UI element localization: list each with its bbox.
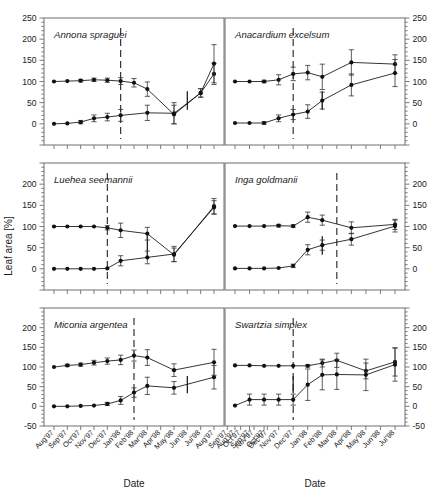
- data-point: [119, 79, 123, 83]
- data-point: [233, 79, 237, 83]
- data-point: [233, 121, 237, 125]
- y-tick-label: 200: [22, 179, 37, 189]
- data-point: [119, 113, 123, 117]
- data-point: [306, 383, 310, 387]
- panel-swartzia-simplex: 200150100500-50Swartzia simplex: [225, 308, 427, 431]
- y-tick-label: 0: [413, 119, 418, 129]
- data-point: [247, 121, 251, 125]
- y-tick-label: 0: [32, 264, 37, 274]
- data-point: [145, 255, 149, 259]
- data-point: [349, 83, 353, 87]
- data-point: [262, 224, 266, 228]
- y-tick-label: 50: [413, 382, 423, 392]
- y-tick-label: 150: [22, 342, 37, 352]
- data-point: [247, 266, 251, 270]
- y-tick-label: 200: [413, 179, 428, 189]
- data-point: [320, 373, 324, 377]
- y-tick-label: 100: [22, 362, 37, 372]
- data-point: [393, 224, 397, 228]
- panel-luehea-seemannii: 200150100500Luehea seemannii: [22, 163, 224, 294]
- data-point: [306, 109, 310, 113]
- data-point: [65, 404, 69, 408]
- data-point: [65, 121, 69, 125]
- data-point: [247, 363, 251, 367]
- data-point: [65, 79, 69, 83]
- y-tick-label: 50: [413, 243, 423, 253]
- data-point: [132, 81, 136, 85]
- y-tick-label: 250: [22, 13, 37, 23]
- data-point: [247, 79, 251, 83]
- data-point: [105, 359, 109, 363]
- data-point: [92, 267, 96, 271]
- panel-title-miconia-argentea: Miconia argentea: [54, 319, 128, 330]
- panel-anacardium-excelsum: 250200150100500Anacardium excelsum: [225, 13, 427, 149]
- data-point: [233, 266, 237, 270]
- series-line-upper: [235, 217, 395, 228]
- data-point: [320, 218, 324, 222]
- data-point: [119, 358, 123, 362]
- x-tick-labels-col1: Aug'97Sep'97Oct'97Nov'97Dec'97Jan'98Feb'…: [33, 428, 215, 451]
- data-point: [306, 71, 310, 75]
- y-tick-label: -50: [24, 421, 37, 431]
- data-point: [145, 232, 149, 236]
- y-tick-label: 200: [22, 323, 37, 333]
- data-point: [277, 398, 281, 402]
- figure-root: 250200150100500Annona spraguei2502001501…: [0, 0, 447, 492]
- data-point: [277, 364, 281, 368]
- data-point: [52, 122, 56, 126]
- data-point: [262, 364, 266, 368]
- data-point: [364, 373, 368, 377]
- data-point: [320, 98, 324, 102]
- data-point: [79, 267, 83, 271]
- data-point: [52, 365, 56, 369]
- data-point: [291, 72, 295, 76]
- data-point: [172, 386, 176, 390]
- data-point: [277, 116, 281, 120]
- y-tick-label: 250: [413, 13, 428, 23]
- y-tick-label: 150: [413, 342, 428, 352]
- x-tick-label: Jul'98: [377, 428, 397, 448]
- data-point: [145, 111, 149, 115]
- data-point: [52, 79, 56, 83]
- data-point: [262, 398, 266, 402]
- data-point: [92, 78, 96, 82]
- data-point: [79, 363, 83, 367]
- data-point: [320, 75, 324, 79]
- series-line-lower: [235, 73, 395, 123]
- y-tick-label: 200: [413, 34, 428, 44]
- data-point: [199, 91, 203, 95]
- data-point: [79, 404, 83, 408]
- data-point: [233, 363, 237, 367]
- data-point: [349, 226, 353, 230]
- data-point: [79, 224, 83, 228]
- data-point: [79, 79, 83, 83]
- data-point: [105, 78, 109, 82]
- y-tick-label: 100: [22, 222, 37, 232]
- data-point: [65, 267, 69, 271]
- data-point: [349, 237, 353, 241]
- y-tick-label: 200: [22, 34, 37, 44]
- y-tick-label: 0: [413, 264, 418, 274]
- data-point: [262, 266, 266, 270]
- data-point: [393, 71, 397, 75]
- data-point: [119, 259, 123, 263]
- data-point: [306, 248, 310, 252]
- panel-title-luehea-seemannii: Luehea seemannii: [54, 174, 133, 185]
- data-point: [145, 384, 149, 388]
- x-axis-title-right: Date: [304, 478, 326, 489]
- data-point: [262, 79, 266, 83]
- data-point: [335, 372, 339, 376]
- data-point: [349, 60, 353, 64]
- data-point: [212, 62, 216, 66]
- y-tick-label: 100: [413, 222, 428, 232]
- multi-panel-line-chart: 250200150100500Annona spraguei2502001501…: [0, 0, 447, 492]
- data-point: [212, 360, 216, 364]
- y-tick-label: 150: [22, 200, 37, 210]
- data-point: [233, 403, 237, 407]
- data-point: [65, 363, 69, 367]
- data-point: [145, 355, 149, 359]
- y-tick-label: 50: [413, 98, 423, 108]
- data-point: [92, 403, 96, 407]
- data-point: [212, 205, 216, 209]
- data-point: [172, 111, 176, 115]
